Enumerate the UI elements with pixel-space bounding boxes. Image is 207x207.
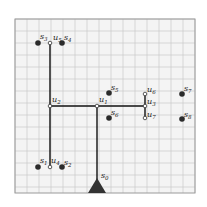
steiner-node-u1 xyxy=(95,104,99,108)
steiner-node-u4 xyxy=(48,165,52,169)
steiner-tree-diagram: s1s2s3s4s5s6s7s8u1u2u3u4u5u6u7s0 xyxy=(0,0,207,207)
sink-node-s3 xyxy=(35,40,41,46)
steiner-node-u2 xyxy=(48,104,52,108)
steiner-node-u5 xyxy=(48,41,52,45)
sink-node-s1 xyxy=(35,164,41,170)
